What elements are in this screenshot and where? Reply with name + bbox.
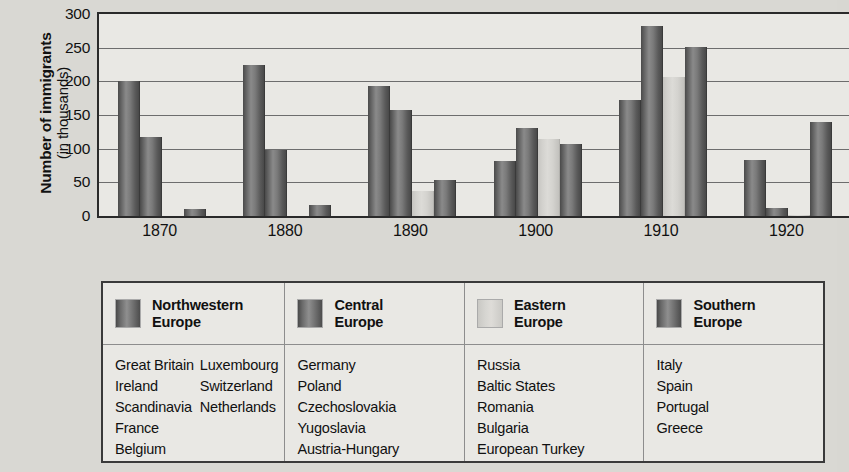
bar-1890-eastern-europe: [412, 191, 434, 216]
legend-swatch-southern: [656, 299, 682, 328]
y-tick-100: 100: [44, 141, 90, 156]
bar-1920-northwestern-europe: [744, 160, 766, 216]
country-item: Scandinavia: [115, 397, 194, 418]
country-item: Austria-Hungary: [297, 439, 399, 460]
plot-inner: [99, 14, 849, 216]
chart-legend: NorthwesternEuropeGreat BritainIrelandSc…: [101, 281, 825, 463]
legend-column-eastern: EasternEuropeRussiaBaltic StatesRomaniaB…: [465, 283, 645, 461]
legend-title-line1: Northwestern: [152, 297, 243, 314]
x-axis-tick-labels: 187018801890190019101920: [97, 222, 849, 246]
country-item: Italy: [656, 355, 708, 376]
immigration-bar-chart: Number of immigrants (in thousands) 3002…: [0, 0, 837, 252]
x-tick-1910: 1910: [644, 222, 679, 240]
gridline-150: [99, 115, 849, 116]
country-item: Russia: [477, 355, 584, 376]
legend-column-central: CentralEuropeGermanyPolandCzechoslovakia…: [285, 283, 465, 461]
y-tick-300: 300: [44, 6, 90, 21]
bar-1910-eastern-europe: [663, 77, 685, 216]
legend-column-southern: SouthernEuropeItalySpainPortugalGreece: [644, 283, 823, 461]
y-tick-200: 200: [44, 73, 90, 88]
bar-1920-central-europe: [766, 208, 788, 216]
legend-title-line2: Europe: [152, 314, 243, 331]
y-tick-0: 0: [44, 208, 90, 223]
country-list: GermanyPolandCzechoslovakiaYugoslaviaAus…: [297, 355, 399, 461]
legend-header-central: CentralEurope: [285, 283, 464, 345]
legend-title-line2: Europe: [334, 314, 383, 331]
gridline-50: [99, 182, 849, 183]
country-list: Great BritainIrelandScandinaviaFranceBel…: [115, 355, 194, 461]
bar-1880-central-europe: [265, 150, 287, 216]
y-tick-150: 150: [44, 107, 90, 122]
plot-area: [97, 12, 849, 218]
country-item: Bulgaria: [477, 418, 584, 439]
x-tick-1920: 1920: [769, 222, 804, 240]
legend-title-line1: Southern: [693, 297, 755, 314]
bar-1890-central-europe: [390, 110, 412, 216]
country-item: Switzerland: [200, 376, 279, 397]
country-item: Luxembourg: [200, 355, 279, 376]
bar-1890-northwestern-europe: [368, 86, 390, 216]
legend-body-southern: ItalySpainPortugalGreece: [644, 345, 823, 461]
legend-body-central: GermanyPolandCzechoslovakiaYugoslaviaAus…: [285, 345, 464, 461]
bar-1870-northwestern-europe: [118, 81, 140, 216]
country-list: RussiaBaltic StatesRomaniaBulgariaEurope…: [477, 355, 584, 461]
legend-swatch-northwestern: [115, 299, 141, 328]
country-item: France: [115, 418, 194, 439]
bar-1900-eastern-europe: [538, 139, 560, 216]
country-item: Spain: [656, 376, 708, 397]
legend-title-eastern: EasternEurope: [514, 297, 566, 330]
bar-1880-southern-europe: [309, 205, 331, 216]
bar-1880-northwestern-europe: [243, 65, 265, 217]
country-item: Belgium: [115, 439, 194, 460]
bar-1900-southern-europe: [560, 144, 582, 216]
x-tick-1870: 1870: [142, 222, 177, 240]
y-tick-250: 250: [44, 40, 90, 55]
legend-header-southern: SouthernEurope: [644, 283, 823, 345]
country-item: Czechoslovakia: [297, 397, 399, 418]
legend-swatch-central: [297, 299, 323, 328]
legend-title-line2: Europe: [693, 314, 755, 331]
country-item: Germany: [297, 355, 399, 376]
legend-header-eastern: EasternEurope: [465, 283, 644, 345]
legend-swatch-eastern: [477, 299, 503, 328]
country-item: Portugal: [656, 397, 708, 418]
legend-body-northwestern: Great BritainIrelandScandinaviaFranceBel…: [103, 345, 284, 461]
x-tick-1890: 1890: [393, 222, 428, 240]
bar-1890-southern-europe: [434, 180, 456, 216]
bar-1910-southern-europe: [685, 47, 707, 216]
legend-column-northwestern: NorthwesternEuropeGreat BritainIrelandSc…: [103, 283, 285, 461]
bar-1920-eastern-europe: [788, 215, 810, 216]
legend-title-line1: Eastern: [514, 297, 566, 314]
legend-title-line1: Central: [334, 297, 383, 314]
x-tick-1880: 1880: [268, 222, 303, 240]
country-list: LuxembourgSwitzerlandNetherlands: [200, 355, 279, 461]
x-tick-1900: 1900: [518, 222, 553, 240]
bar-1900-central-europe: [516, 128, 538, 216]
legend-body-eastern: RussiaBaltic StatesRomaniaBulgariaEurope…: [465, 345, 644, 461]
country-list: ItalySpainPortugalGreece: [656, 355, 708, 461]
country-item: European Turkey: [477, 439, 584, 460]
bar-1870-southern-europe: [184, 209, 206, 216]
gridline-250: [99, 48, 849, 49]
country-item: Romania: [477, 397, 584, 418]
y-tick-50: 50: [44, 174, 90, 189]
bar-1870-central-europe: [140, 137, 162, 216]
bar-1900-northwestern-europe: [494, 161, 516, 216]
legend-title-central: CentralEurope: [334, 297, 383, 330]
gridline-200: [99, 81, 849, 82]
legend-header-northwestern: NorthwesternEurope: [103, 283, 284, 345]
bar-1910-northwestern-europe: [619, 100, 641, 216]
legend-title-line2: Europe: [514, 314, 566, 331]
country-item: Ireland: [115, 376, 194, 397]
bar-1920-southern-europe: [810, 122, 832, 216]
legend-title-southern: SouthernEurope: [693, 297, 755, 330]
bar-1910-central-europe: [641, 26, 663, 216]
country-item: Netherlands: [200, 397, 279, 418]
legend-title-northwestern: NorthwesternEurope: [152, 297, 243, 330]
country-item: Great Britain: [115, 355, 194, 376]
country-item: Poland: [297, 376, 399, 397]
country-item: Greece: [656, 418, 708, 439]
gridline-100: [99, 149, 849, 150]
y-axis-tick-labels: 300250200150100500: [44, 12, 90, 217]
